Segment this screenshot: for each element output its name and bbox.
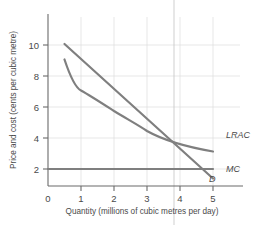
- y-tick-label-8: 8: [34, 71, 39, 82]
- x-tick-label-1: 1: [78, 193, 83, 204]
- chart-figure: 10 8 6 4 2 0 1 2 3 4 5 Quantity (million…: [0, 0, 259, 225]
- demand-curve-label: D: [209, 174, 216, 184]
- x-axis-title: Quantity (millions of cubic metres per d…: [66, 207, 219, 216]
- y-tick-label-2: 2: [34, 164, 39, 175]
- y-tick-label-4: 4: [34, 133, 39, 144]
- economics-chart-svg: 10 8 6 4 2 0 1 2 3 4 5 Quantity (million…: [0, 0, 259, 225]
- x-tick-label-0: 0: [45, 193, 50, 204]
- x-tick-label-2: 2: [111, 193, 116, 204]
- y-tick-label-6: 6: [34, 102, 39, 113]
- y-axis-title: Price and cost (cents per cubic metre): [9, 31, 18, 169]
- y-tick-label-10: 10: [28, 40, 39, 51]
- x-tick-label-3: 3: [144, 193, 149, 204]
- chart-background: [0, 0, 259, 225]
- x-tick-label-4: 4: [177, 193, 182, 204]
- x-tick-label-5: 5: [210, 193, 215, 204]
- lrac-curve-label: LRAC: [226, 130, 251, 140]
- mc-curve-label: MC: [226, 164, 240, 174]
